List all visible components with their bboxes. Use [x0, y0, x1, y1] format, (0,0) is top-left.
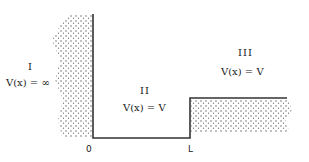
region-ii-equation: V(x) = V — [123, 103, 166, 113]
region-iii-equation: V(x) = V — [221, 67, 264, 77]
axis-label-zero: 0 — [86, 145, 92, 154]
region-i-numeral: I — [28, 62, 33, 72]
region-ii-numeral: II — [140, 86, 150, 96]
region-i-equation: V(x) = ∞ — [6, 78, 50, 88]
region-iii-shading — [191, 99, 292, 132]
axis-label-l: L — [188, 145, 193, 154]
region-iii-numeral: III — [238, 48, 253, 58]
region-i-shading — [52, 14, 93, 137]
